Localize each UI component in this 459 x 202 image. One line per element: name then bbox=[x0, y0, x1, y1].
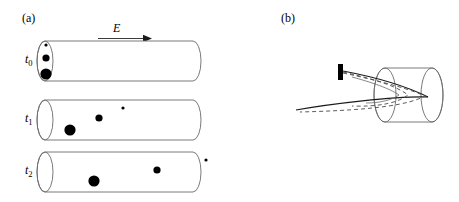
tube-t0: t0 bbox=[25, 41, 201, 81]
small-particle bbox=[44, 43, 47, 46]
detector-cylinder bbox=[374, 68, 443, 122]
panel-b: (b) bbox=[281, 11, 443, 122]
panel-b-label: (b) bbox=[281, 11, 295, 25]
detector-body bbox=[374, 68, 443, 122]
panel-a-label: (a) bbox=[22, 11, 35, 25]
panel-a: (a) E t0 t1 bbox=[22, 11, 208, 192]
medium-particle bbox=[95, 114, 102, 121]
time-label-t1: t1 bbox=[25, 111, 33, 127]
emitter-tip-icon bbox=[338, 64, 343, 80]
time-label-t0: t0 bbox=[25, 52, 33, 68]
medium-particle bbox=[153, 166, 160, 173]
figure-canvas: (a) E t0 t1 bbox=[0, 0, 459, 202]
scientific-figure: (a) E t0 t1 bbox=[0, 0, 459, 202]
tube-body-t1 bbox=[37, 100, 201, 140]
tube-t1: t1 bbox=[25, 100, 201, 140]
field-label-E: E bbox=[112, 21, 121, 35]
large-particle bbox=[88, 175, 99, 186]
time-label-t2: t2 bbox=[25, 163, 33, 179]
tube-body-t0 bbox=[37, 41, 201, 81]
tube-t2: t2 bbox=[25, 152, 208, 192]
medium-particle bbox=[42, 54, 49, 61]
small-particle bbox=[204, 158, 207, 161]
field-arrow-group: E bbox=[98, 21, 152, 42]
large-particle bbox=[40, 68, 51, 79]
large-particle bbox=[64, 124, 75, 135]
tube-body-t2 bbox=[37, 152, 201, 192]
small-particle bbox=[121, 106, 124, 109]
